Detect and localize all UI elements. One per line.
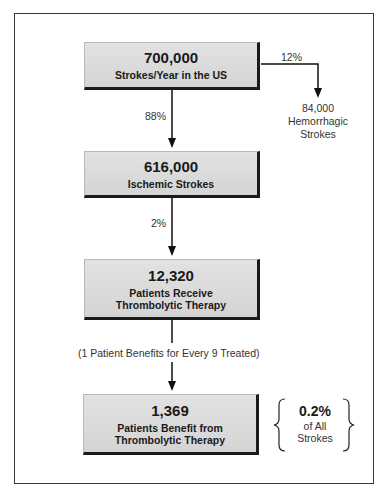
- hemorrhagic-value: 84,000: [280, 102, 356, 115]
- hemorrhagic-percent-label: 12%: [281, 51, 302, 63]
- benefit-patients-label-line2: Thrombolytic Therapy: [115, 434, 225, 446]
- treated-percent-label: 2%: [151, 217, 166, 229]
- treated-patients-label-line1: Patients Receive: [129, 287, 212, 299]
- treated-patients-box: 12,320 Patients Receive Thrombolytic The…: [84, 259, 260, 320]
- ischemic-strokes-value: 616,000: [144, 158, 198, 175]
- benefit-patients-box: 1,369 Patients Benefit from Thrombolytic…: [83, 394, 259, 455]
- left-brace-icon: [274, 399, 285, 451]
- ischemic-strokes-box: 616,000 Ischemic Strokes: [84, 151, 260, 198]
- ischemic-percent-label: 88%: [145, 110, 166, 122]
- hemorrhagic-strokes-node: 84,000 Hemorrhagic Strokes: [280, 102, 356, 141]
- benefit-ratio-note: (1 Patient Benefits for Every 9 Treated): [78, 347, 260, 359]
- treated-patients-value: 12,320: [148, 267, 194, 284]
- summary-label-line1: of All: [287, 420, 343, 432]
- benefit-patients-label-line1: Patients Benefit from: [117, 422, 223, 434]
- hemorrhagic-label-line2: Strokes: [280, 128, 356, 141]
- hemorrhagic-label-line1: Hemorrhagic: [280, 115, 356, 128]
- summary-label-line2: Strokes: [287, 432, 343, 444]
- treated-patients-label-line2: Thrombolytic Therapy: [116, 299, 226, 311]
- total-strokes-label: Strokes/Year in the US: [115, 69, 227, 81]
- right-brace-icon: [343, 399, 354, 451]
- total-strokes-box: 700,000 Strokes/Year in the US: [84, 42, 260, 90]
- summary-percent-node: 0.2% of All Strokes: [287, 403, 343, 444]
- total-strokes-value: 700,000: [144, 49, 198, 66]
- summary-value: 0.2%: [287, 403, 343, 420]
- ischemic-strokes-label: Ischemic Strokes: [128, 178, 214, 190]
- benefit-patients-value: 1,369: [151, 402, 189, 419]
